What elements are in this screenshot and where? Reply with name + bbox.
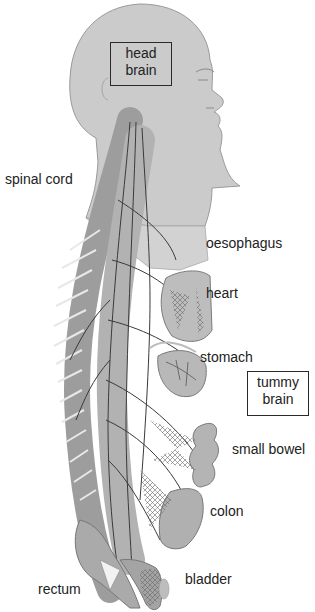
head-silhouette — [70, 4, 240, 226]
anatomy-illustration — [0, 0, 315, 612]
tummy-brain-line2: brain — [248, 391, 308, 408]
label-spinal-cord: spinal cord — [5, 172, 73, 186]
head-brain-line2: brain — [111, 62, 171, 79]
label-bladder: bladder — [185, 572, 232, 586]
label-rectum: rectum — [38, 582, 81, 596]
label-colon: colon — [210, 504, 243, 518]
small-bowel-illustration — [150, 420, 218, 487]
head-brain-box: head brain — [110, 42, 172, 86]
tummy-brain-box: tummy brain — [247, 371, 309, 416]
label-stomach: stomach — [200, 350, 253, 364]
label-heart: heart — [206, 286, 238, 300]
heart-illustration — [161, 271, 212, 341]
stomach-illustration — [150, 342, 206, 396]
label-oesophagus: oesophagus — [206, 236, 282, 250]
tummy-brain-line1: tummy — [248, 374, 308, 391]
head-brain-line1: head — [111, 45, 171, 62]
label-small-bowel: small bowel — [232, 442, 305, 456]
